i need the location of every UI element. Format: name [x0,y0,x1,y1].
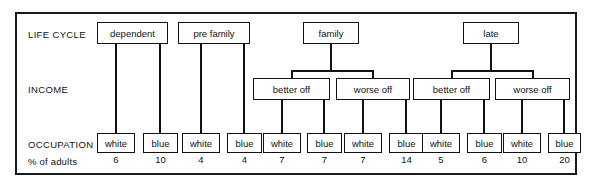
connector-lbo-blue [483,100,485,134]
life-cycle-node-late: late [463,22,519,44]
percent-value-3: 4 [182,154,220,165]
connector-late-stem [490,44,492,71]
connector-fbo-blue [323,100,325,134]
connector-pre-family-white [200,44,202,134]
percent-value-9: 5 [422,154,460,165]
occupation-node-1: white [97,133,135,153]
income-node-late-worse-off: worse off [495,78,570,100]
connector-family-stem [330,44,332,71]
percent-value-10: 6 [467,154,502,165]
connector-fwo-blue [405,100,407,134]
percent-value-5: 7 [263,154,301,165]
occupation-node-12: blue [548,133,581,153]
occupation-node-3: white [182,133,220,153]
percent-value-7: 7 [344,154,382,165]
occupation-node-10: blue [467,133,502,153]
percent-value-11: 10 [503,154,541,165]
connector-family-bar [291,70,373,72]
occupation-node-2: blue [143,133,178,153]
life-cycle-node-family: family [303,22,359,44]
income-node-late-better-off: better off [413,78,490,100]
percent-value-4: 4 [227,154,262,165]
life-cycle-node-dependent: dependent [97,22,168,44]
life-cycle-node-pre-family: pre family [178,22,250,44]
percent-value-6: 7 [307,154,342,165]
occupation-node-7: white [344,133,382,153]
occupation-node-4: blue [227,133,262,153]
connector-fwo-white [362,100,364,134]
connector-lwo-blue [563,100,565,134]
occupation-node-6: blue [307,133,342,153]
occupation-node-11: white [503,133,541,153]
connector-fbo-white [281,100,283,134]
connector-dependent-blue [159,44,161,134]
connector-lwo-white [521,100,523,134]
income-node-family-better-off: better off [253,78,330,100]
row-label-percent-of-adults: % of adults [28,156,77,167]
occupation-node-8: blue [389,133,424,153]
occupation-node-9: white [422,133,460,153]
row-label-occupation: OCCUPATION [28,139,93,150]
connector-pre-family-blue [243,44,245,134]
connector-late-bar [451,70,533,72]
connector-lbo-white [440,100,442,134]
percent-value-8: 14 [389,154,424,165]
income-node-family-worse-off: worse off [336,78,410,100]
occupation-node-5: white [263,133,301,153]
percent-value-1: 6 [97,154,135,165]
connector-dependent-white [115,44,117,134]
segmentation-diagram: LIFE CYCLE INCOME OCCUPATION % of adults… [0,0,593,188]
percent-value-2: 10 [143,154,178,165]
row-label-life-cycle: LIFE CYCLE [28,29,86,40]
percent-value-12: 20 [548,154,581,165]
row-label-income: INCOME [28,84,68,95]
